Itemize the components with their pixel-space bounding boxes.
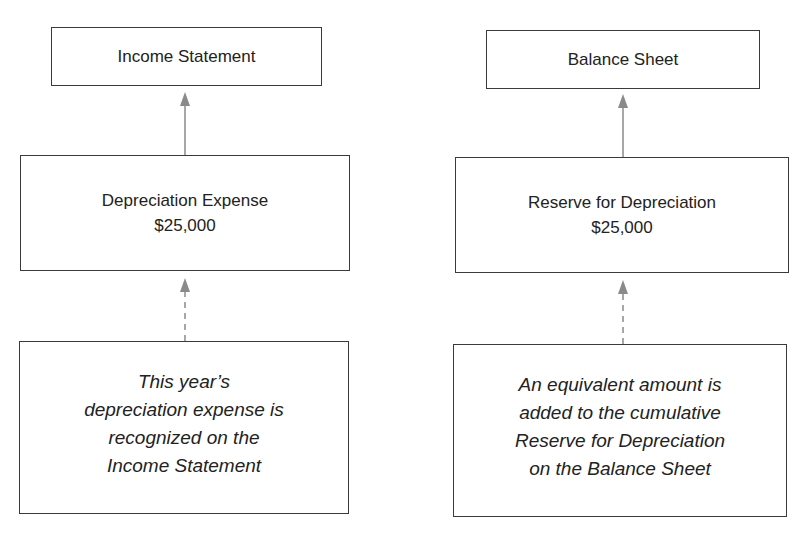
note-line: depreciation expense is xyxy=(84,396,284,424)
reserve-for-depreciation-amount: $25,000 xyxy=(591,215,652,240)
arrow-note-to-reserve xyxy=(618,280,628,344)
reserve-for-depreciation-box: Reserve for Depreciation $25,000 xyxy=(455,157,789,273)
note-line: This year’s xyxy=(138,368,230,396)
note-line: recognized on the xyxy=(108,424,259,452)
depreciation-expense-amount: $25,000 xyxy=(154,213,215,238)
arrow-note-to-depreciation-expense xyxy=(180,278,190,341)
arrow-expense-to-income-statement xyxy=(180,92,190,155)
balance-sheet-box: Balance Sheet xyxy=(486,30,760,89)
note-line: on the Balance Sheet xyxy=(529,455,711,483)
note-line: An equivalent amount is xyxy=(519,371,722,399)
income-statement-label: Income Statement xyxy=(118,47,256,67)
balance-sheet-label: Balance Sheet xyxy=(568,50,679,70)
depreciation-expense-title: Depreciation Expense xyxy=(102,188,268,213)
income-statement-note-box: This year’s depreciation expense is reco… xyxy=(19,341,349,514)
note-line: Reserve for Depreciation xyxy=(515,427,725,455)
arrow-reserve-to-balance-sheet xyxy=(618,94,628,157)
income-statement-box: Income Statement xyxy=(51,27,322,86)
note-line: Income Statement xyxy=(107,452,261,480)
depreciation-expense-box: Depreciation Expense $25,000 xyxy=(20,155,350,271)
balance-sheet-note-box: An equivalent amount is added to the cum… xyxy=(453,344,787,517)
note-line: added to the cumulative xyxy=(519,399,721,427)
reserve-for-depreciation-title: Reserve for Depreciation xyxy=(528,190,716,215)
